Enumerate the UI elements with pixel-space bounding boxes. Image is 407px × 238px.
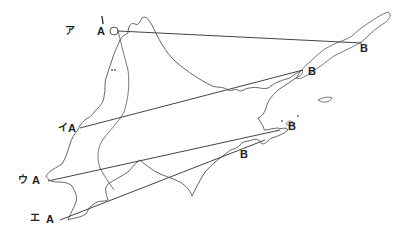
kuril-island-2: [318, 97, 332, 102]
hokkaido-coastline: [46, 17, 303, 220]
route-a-end-label: B: [360, 43, 368, 54]
route-i-start-label: A: [68, 123, 76, 134]
route-a-start-label: A: [97, 26, 105, 37]
route-label-u-kana: ウ: [18, 175, 28, 185]
hokkaido-inner-line: [98, 30, 129, 190]
route-label-a-kana: ア: [65, 26, 75, 36]
hokkaido-route-diagram: ア A B イ A B ウ A B エ A B: [0, 0, 407, 238]
route-u-start-label: A: [32, 175, 40, 186]
route-line-a: [118, 31, 362, 43]
route-e-start-label: A: [46, 214, 54, 225]
route-i-end-label: B: [308, 66, 316, 77]
route-line-e: [60, 140, 265, 220]
route-e-end-label: B: [240, 149, 248, 160]
route-label-e-kana: エ: [30, 213, 40, 223]
route-label-i-kana: イ: [58, 123, 68, 133]
map-outline: [0, 0, 407, 238]
route-u-end-label: B: [288, 121, 296, 132]
route-a-start-marker: [110, 27, 118, 35]
